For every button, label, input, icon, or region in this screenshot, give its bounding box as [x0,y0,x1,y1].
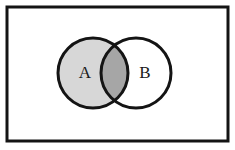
set-b-label: B [139,63,150,82]
venn-diagram-figure: A B [0,0,235,150]
venn-diagram-canvas: A B [0,0,235,150]
set-a-label: A [79,63,92,82]
